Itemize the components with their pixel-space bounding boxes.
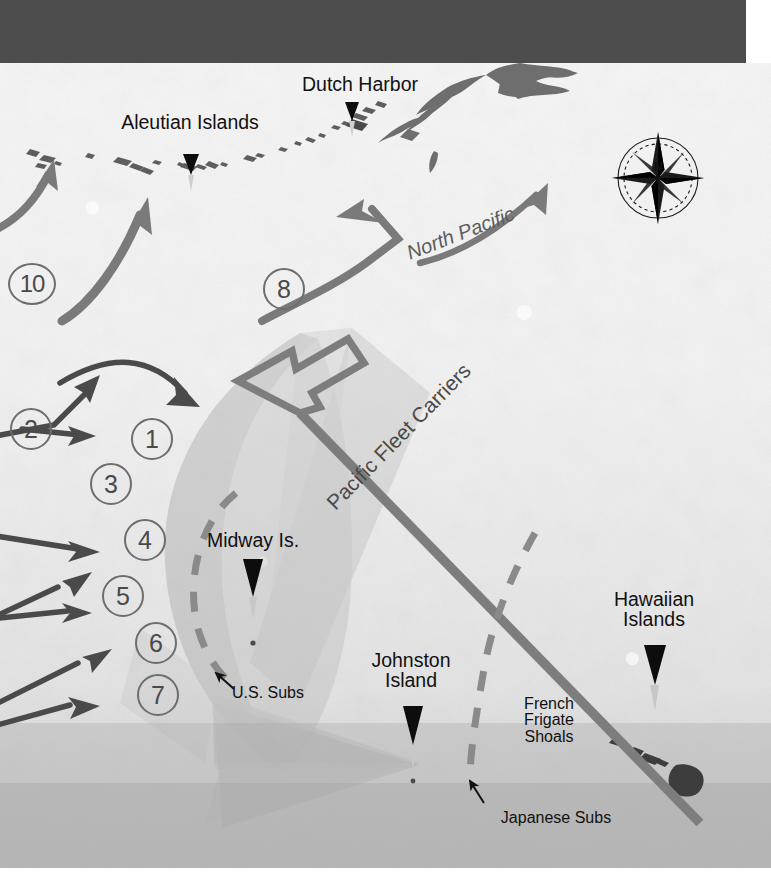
route-number-2[interactable]: 2 bbox=[10, 408, 52, 450]
annotation-french-frigate-shoals: French Frigate Shoals bbox=[524, 696, 574, 745]
route-number-3[interactable]: 3 bbox=[90, 463, 132, 505]
annotation-japanese-subs: Japanese Subs bbox=[501, 810, 611, 826]
route-number-10[interactable]: 10 bbox=[8, 263, 56, 305]
route-number-1[interactable]: 1 bbox=[131, 418, 173, 460]
route-number-5[interactable]: 5 bbox=[102, 575, 144, 617]
route-number-4[interactable]: 4 bbox=[124, 519, 166, 561]
place-label-midway-island: Midway Is. bbox=[207, 531, 299, 551]
map-figure: Aleutian Islands Dutch Harbor Midway Is.… bbox=[0, 0, 771, 891]
annotation-us-subs: U.S. Subs bbox=[232, 685, 304, 701]
place-label-dutch-harbor: Dutch Harbor bbox=[302, 75, 418, 95]
title-banner bbox=[0, 0, 746, 63]
johnston-island-dot bbox=[411, 779, 416, 784]
compass-north-letter: N bbox=[654, 160, 663, 174]
place-label-hawaiian-islands: Hawaiian Islands bbox=[614, 590, 694, 630]
route-number-8[interactable]: 8 bbox=[263, 268, 305, 310]
route-number-7[interactable]: 7 bbox=[137, 674, 179, 716]
route-number-6[interactable]: 6 bbox=[135, 622, 177, 664]
place-label-aleutian-islands: Aleutian Islands bbox=[121, 113, 259, 133]
midway-island-dot bbox=[250, 640, 255, 645]
place-label-johnston-island: Johnston Island bbox=[371, 651, 450, 691]
